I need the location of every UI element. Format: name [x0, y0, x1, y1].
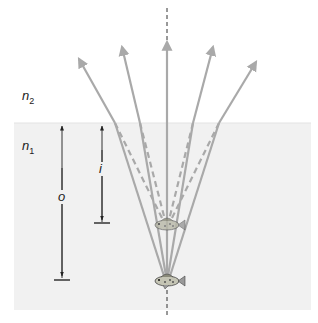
ray-1: [79, 59, 115, 123]
ray-4: [193, 47, 213, 123]
rays-in-air: [79, 42, 256, 123]
object-distance-label: o: [57, 190, 66, 204]
n1-subscript: 1: [29, 146, 34, 156]
ray-5: [219, 62, 256, 123]
medium-label-n2: n2: [22, 88, 34, 106]
n2-subscript: 2: [29, 96, 34, 106]
refraction-diagram: n2 n1 o i: [0, 0, 318, 323]
ray-2: [122, 47, 140, 123]
medium-label-n1: n1: [22, 138, 34, 156]
image-distance-label: i: [98, 162, 103, 176]
diagram-canvas: [0, 0, 318, 323]
